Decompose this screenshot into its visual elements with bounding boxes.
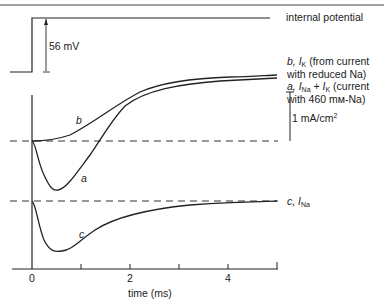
curve-label-b: b <box>76 114 82 126</box>
x-axis-label: time (ms) <box>128 287 172 299</box>
tick-label-2: 2 <box>127 272 133 284</box>
legend-c: c, INa <box>287 195 310 211</box>
curve-a <box>32 78 277 190</box>
curve-c <box>32 201 277 251</box>
legend-a-line2: with 460 mм-Na) <box>287 93 365 105</box>
legend-a-letter: a, <box>287 80 296 92</box>
legend-b-letter: b, <box>287 55 296 67</box>
label-internal-potential: internal potential <box>286 11 363 23</box>
legend-b-line2: with reduced Na) <box>287 68 366 80</box>
label-56mv: 56 mV <box>49 40 79 52</box>
x-ticks <box>81 262 277 269</box>
curve-label-c: c <box>79 228 84 240</box>
tick-label-4: 4 <box>225 272 231 284</box>
tick-label-0: 0 <box>29 272 35 284</box>
label-scale: 1 mA/cm2 <box>292 110 337 124</box>
curve-label-a: a <box>81 172 87 184</box>
curve-b <box>32 75 277 141</box>
legend-c-letter: c, <box>287 195 295 207</box>
